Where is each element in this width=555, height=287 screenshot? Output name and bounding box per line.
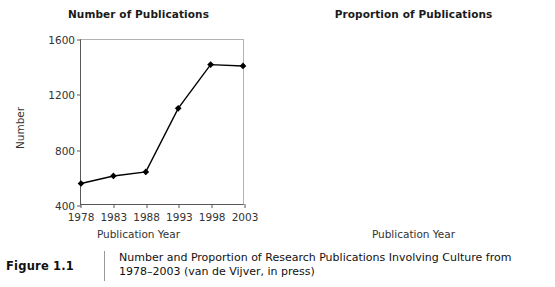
x-tick-label-number-4: 1998 [199, 211, 226, 223]
figure-caption-text: Number and Proportion of Research Public… [105, 249, 555, 279]
x-tick-mark-number-3 [179, 204, 180, 208]
plot-area-number: 40080012001600197819831988199319982003 [80, 39, 244, 205]
x-axis-label-proportion: Publication Year [275, 228, 552, 240]
figure-caption: Figure 1.1 Number and Proportion of Rese… [0, 249, 555, 287]
data-line-number [81, 65, 243, 184]
x-tick-label-number-0: 1978 [68, 211, 95, 223]
figure-number-label: Figure 1.1 [0, 249, 104, 273]
x-axis-label-number: Publication Year [0, 228, 277, 240]
caption-line-2: 1978–2003 (van de Vijver, in press) [119, 265, 555, 279]
x-tick-label-number-1: 1983 [100, 211, 127, 223]
chart-title-number: Number of Publications [0, 8, 277, 20]
chart-title-proportion: Proportion of Publications [275, 8, 552, 20]
y-tick-mark-number-2 [77, 95, 81, 96]
y-axis-label-number: Number [14, 107, 26, 149]
data-point-number-5 [240, 63, 247, 70]
caption-line-1: Number and Proportion of Research Public… [119, 251, 555, 265]
x-tick-label-number-2: 1988 [133, 211, 160, 223]
x-tick-mark-number-2 [146, 204, 147, 208]
x-tick-mark-number-1 [113, 204, 114, 208]
figure-area: Number of Publications 40080012001600197… [0, 0, 555, 247]
x-tick-label-number-3: 1993 [166, 211, 193, 223]
y-tick-label-number-3: 1600 [48, 34, 75, 46]
y-tick-label-number-1: 800 [55, 145, 75, 157]
x-tick-mark-number-4 [212, 204, 213, 208]
line-series-number [81, 40, 243, 204]
x-tick-mark-number-5 [245, 204, 246, 208]
y-tick-mark-number-1 [77, 150, 81, 151]
y-tick-label-number-2: 1200 [48, 89, 75, 101]
chart-panel-proportion: Proportion of Publications 0.0000.0050.0… [275, 0, 552, 247]
x-tick-mark-number-0 [81, 204, 82, 208]
data-point-number-0 [78, 180, 85, 187]
data-point-number-2 [142, 169, 149, 176]
x-tick-label-number-5: 2003 [232, 211, 259, 223]
y-tick-mark-number-3 [77, 40, 81, 41]
chart-panel-number: Number of Publications 40080012001600197… [0, 0, 277, 247]
data-point-number-1 [110, 173, 117, 180]
